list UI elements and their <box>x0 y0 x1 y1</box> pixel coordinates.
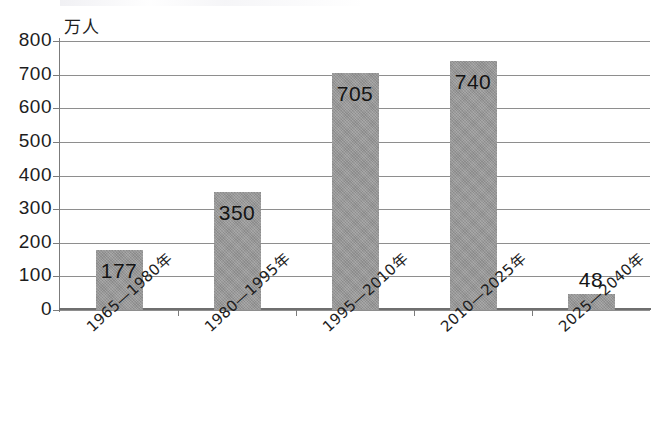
y-tick-800 <box>53 41 60 42</box>
y-tick-label-800: 800 <box>4 29 52 51</box>
y-tick-600 <box>53 108 60 109</box>
gridline-800 <box>60 41 650 42</box>
y-tick-100 <box>53 276 60 277</box>
y-tick-300 <box>53 209 60 210</box>
y-tick-200 <box>53 243 60 244</box>
bar-value-label-1: 350 <box>197 201 277 225</box>
y-tick-label-600: 600 <box>4 96 52 118</box>
y-tick-500 <box>53 142 60 143</box>
x-tick-1 <box>178 310 179 316</box>
y-tick-400 <box>53 176 60 177</box>
y-tick-700 <box>53 75 60 76</box>
y-tick-label-700: 700 <box>4 63 52 85</box>
bar-value-label-3: 740 <box>433 70 513 94</box>
y-tick-label-500: 500 <box>4 130 52 152</box>
y-axis-unit-label: 万人 <box>64 13 100 38</box>
x-tick-2 <box>296 310 297 316</box>
y-tick-label-100: 100 <box>4 264 52 286</box>
y-tick-label-400: 400 <box>4 164 52 186</box>
bar-value-label-2: 705 <box>315 82 395 106</box>
y-tick-label-0: 0 <box>4 298 52 320</box>
y-tick-label-300: 300 <box>4 197 52 219</box>
bar-chart: 万人 17735070574048 0100200300400500600700… <box>0 0 663 442</box>
y-tick-label-200: 200 <box>4 231 52 253</box>
scan-artifact <box>60 0 360 6</box>
x-tick-3 <box>414 310 415 316</box>
x-tick-4 <box>532 310 533 316</box>
y-tick-0 <box>53 310 60 311</box>
